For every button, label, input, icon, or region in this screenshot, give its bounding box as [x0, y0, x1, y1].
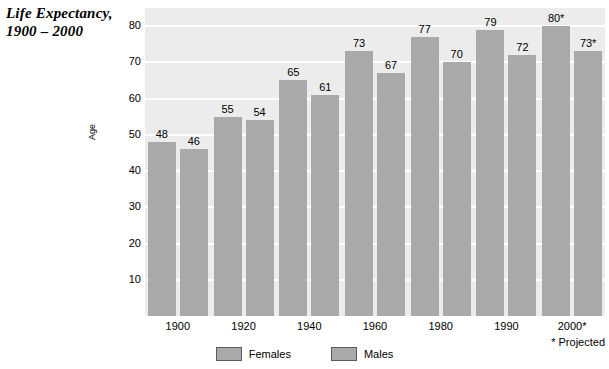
bar-males-1990[interactable]: [508, 55, 536, 316]
bar-value-label: 72: [502, 41, 542, 53]
legend-swatch-icon: [216, 347, 242, 361]
bar-value-label: 54: [240, 106, 280, 118]
x-axis-tick-label: 1900: [148, 320, 208, 332]
bar-females-1980[interactable]: [411, 37, 439, 316]
plot-area: 48465554656173677770797280*73*: [145, 8, 605, 316]
y-axis: 8070605040302010: [101, 8, 141, 316]
x-axis-tick-label: 1960: [345, 320, 405, 332]
bar-value-label: 77: [405, 23, 445, 35]
y-axis-tick-label: 20: [105, 238, 141, 249]
bar-females-2000[interactable]: [542, 26, 570, 316]
x-axis-tick-label: 1940: [279, 320, 339, 332]
legend-item-males[interactable]: Males: [331, 347, 393, 361]
bar-females-1990[interactable]: [476, 30, 504, 316]
y-axis-tick-label: 10: [105, 274, 141, 285]
y-axis-tick-label: 60: [105, 93, 141, 104]
legend-item-females[interactable]: Females: [216, 347, 291, 361]
y-axis-tick-label: 50: [105, 129, 141, 140]
bar-value-label: 67: [371, 59, 411, 71]
bar-value-label: 70: [437, 48, 477, 60]
y-axis-title: Age: [87, 124, 97, 140]
bar-value-label: 73*: [568, 37, 605, 49]
legend-label: Females: [249, 348, 291, 360]
bar-males-1920[interactable]: [246, 120, 274, 316]
y-axis-tick-label: 70: [105, 56, 141, 67]
x-axis-tick-label: 1920: [214, 320, 274, 332]
bar-value-label: 79: [470, 16, 510, 28]
gridline: [145, 25, 605, 27]
legend-label: Males: [364, 348, 393, 360]
x-axis-tick-label: 1990: [476, 320, 536, 332]
y-axis-tick-label: 30: [105, 201, 141, 212]
bar-males-1980[interactable]: [443, 62, 471, 316]
legend-swatch-icon: [331, 347, 357, 361]
bar-males-1900[interactable]: [180, 149, 208, 316]
bar-value-label: 61: [305, 81, 345, 93]
x-axis-tick-label: 2000*: [542, 320, 602, 332]
y-axis-tick-label: 80: [105, 20, 141, 31]
bar-males-1940[interactable]: [311, 95, 339, 316]
bar-value-label: 65: [273, 66, 313, 78]
bar-females-1920[interactable]: [214, 117, 242, 316]
chart-legend: FemalesMales: [0, 347, 609, 361]
bar-value-label: 73: [339, 37, 379, 49]
bar-value-label: 80*: [536, 12, 576, 24]
bar-females-1900[interactable]: [148, 142, 176, 316]
bar-value-label: 46: [174, 135, 214, 147]
bar-males-2000[interactable]: [574, 51, 602, 316]
bar-females-1960[interactable]: [345, 51, 373, 316]
bar-males-1960[interactable]: [377, 73, 405, 316]
x-axis-tick-label: 1980: [411, 320, 471, 332]
bar-females-1940[interactable]: [279, 80, 307, 316]
y-axis-tick-label: 40: [105, 165, 141, 176]
x-axis: 1900192019401960198019902000*: [145, 320, 605, 336]
